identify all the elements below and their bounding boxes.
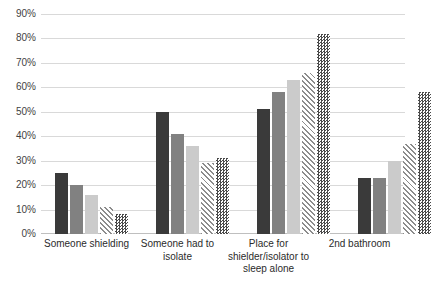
bar: [302, 73, 315, 234]
y-axis-tick-label: 40%: [2, 131, 36, 141]
bar: [186, 146, 199, 234]
y-axis-tick-label: 60%: [2, 82, 36, 92]
bar-group: [41, 14, 142, 234]
x-axis-category-label: Place for shielder/isolator to sleep alo…: [223, 238, 314, 276]
y-axis-tick-label: 70%: [2, 58, 36, 68]
bar: [317, 34, 330, 234]
bar: [70, 185, 83, 234]
bar: [418, 92, 431, 234]
bar: [287, 80, 300, 234]
y-axis: 90%80%70%60%50%40%30%20%10%0%: [0, 14, 41, 234]
bar: [85, 195, 98, 234]
bar: [156, 112, 169, 234]
plot-area: [41, 14, 405, 234]
bar: [403, 144, 416, 234]
bar-group: [243, 14, 344, 234]
bar: [388, 161, 401, 234]
bar: [115, 214, 128, 234]
bar-groups: [41, 14, 405, 234]
bar: [216, 158, 229, 234]
x-axis-category-label: 2nd bathroom: [314, 238, 405, 276]
bar: [272, 92, 285, 234]
x-axis-category-label: Someone had to isolate: [132, 238, 223, 276]
y-axis-tick-label: 30%: [2, 156, 36, 166]
y-axis-tick-label: 10%: [2, 205, 36, 215]
y-axis-tick-label: 80%: [2, 33, 36, 43]
bar: [257, 109, 270, 234]
bar: [55, 173, 68, 234]
y-axis-tick-label: 90%: [2, 9, 36, 19]
bar-group: [344, 14, 435, 234]
x-axis-labels: Someone shieldingSomeone had to isolateP…: [41, 238, 405, 276]
bar: [171, 134, 184, 234]
y-axis-tick-label: 0%: [2, 229, 36, 239]
bar: [373, 178, 386, 234]
y-axis-tick-label: 20%: [2, 180, 36, 190]
bar: [201, 163, 214, 234]
bar: [100, 207, 113, 234]
x-axis-category-label: Someone shielding: [41, 238, 132, 276]
bar: [358, 178, 371, 234]
bar-group: [142, 14, 243, 234]
y-axis-tick-label: 50%: [2, 107, 36, 117]
